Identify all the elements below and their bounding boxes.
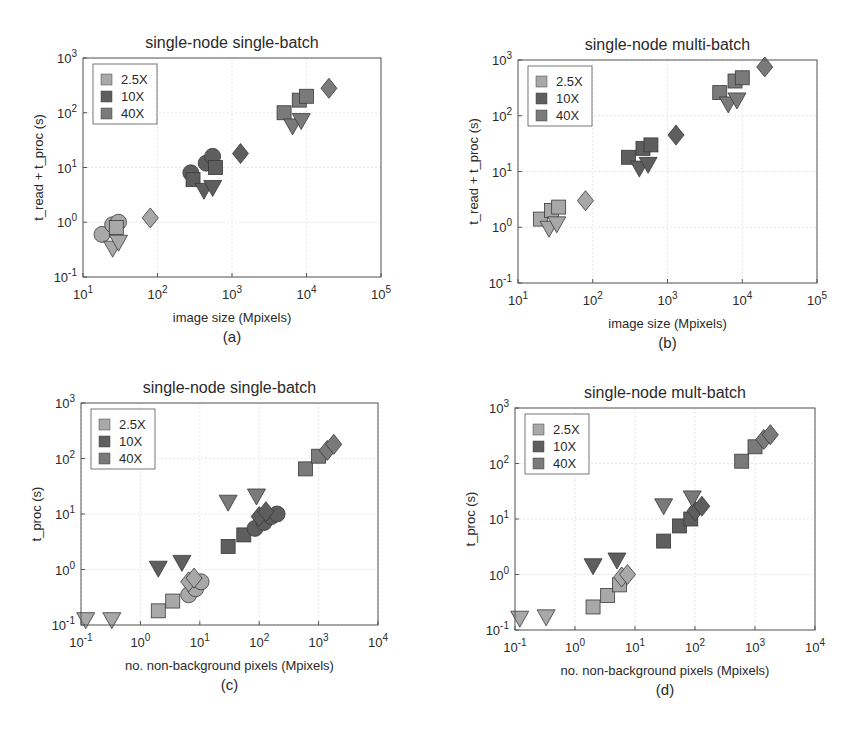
square-marker xyxy=(586,600,600,614)
square-marker xyxy=(735,71,749,85)
figure-canvas: 10110210310410510-1100101102103single-no… xyxy=(0,0,851,737)
panel-caption: (c) xyxy=(221,676,239,693)
legend: 2.5X10X40X xyxy=(528,66,592,126)
tick-label: 102 xyxy=(583,290,603,308)
tick-label: 10-1 xyxy=(52,615,76,633)
x-axis-label: no. non-background pixels (Mpixels) xyxy=(561,663,770,678)
x-axis-label: no. non-background pixels (Mpixels) xyxy=(125,658,334,673)
chart-title: single-node multi-batch xyxy=(585,36,750,53)
legend-label: 40X xyxy=(556,108,579,123)
tick-label: 102 xyxy=(492,106,512,124)
legend-swatch xyxy=(99,453,110,464)
chart-c: 10-110010110210310410-1100101102103singl… xyxy=(29,379,388,693)
legend-label: 2.5X xyxy=(119,417,146,432)
tick-label: 100 xyxy=(489,565,509,583)
square-marker xyxy=(298,462,312,476)
tick-label: 104 xyxy=(296,284,316,302)
legend-swatch xyxy=(533,424,544,435)
square-marker xyxy=(151,604,165,618)
tick-label: 105 xyxy=(807,290,827,308)
panel-caption: (b) xyxy=(658,334,676,351)
tick-label: 103 xyxy=(55,393,75,411)
tick-label: 101 xyxy=(508,290,528,308)
tick-label: 101 xyxy=(489,509,509,527)
legend-label: 10X xyxy=(556,91,579,106)
y-axis-label: t_proc (s) xyxy=(463,492,478,547)
y-axis-label: t_read + t_proc (s) xyxy=(466,118,481,225)
panel-caption: (d) xyxy=(656,681,674,698)
legend-swatch xyxy=(536,93,547,104)
chart-title: single-node single-batch xyxy=(145,34,318,51)
legend-label: 40X xyxy=(121,106,144,121)
square-marker xyxy=(208,161,222,175)
legend: 2.5X10X40X xyxy=(91,409,155,469)
y-axis-label: t_read + t_proc (s) xyxy=(31,114,46,221)
square-marker xyxy=(300,89,314,103)
square-marker xyxy=(644,138,658,152)
tick-label: 103 xyxy=(657,290,677,308)
y-axis-label: t_proc (s) xyxy=(29,487,44,542)
tick-label: 103 xyxy=(222,284,242,302)
tick-label: 101 xyxy=(190,632,210,650)
figure: 10110210310410510-1100101102103single-no… xyxy=(0,0,851,737)
tick-label: 102 xyxy=(489,454,509,472)
tick-label: 10-1 xyxy=(503,637,527,655)
legend-swatch xyxy=(101,74,112,85)
tick-label: 10-1 xyxy=(54,267,78,285)
tick-label: 100 xyxy=(492,217,512,235)
x-axis-label: image size (Mpixels) xyxy=(173,310,291,325)
tick-label: 104 xyxy=(368,632,388,650)
tick-label: 102 xyxy=(147,284,167,302)
tick-label: 101 xyxy=(492,162,512,180)
square-marker xyxy=(735,454,749,468)
tick-label: 102 xyxy=(685,637,705,655)
tick-label: 100 xyxy=(55,560,75,578)
tick-label: 10-1 xyxy=(489,273,513,291)
tick-label: 105 xyxy=(371,284,391,302)
legend-swatch xyxy=(99,436,110,447)
tick-label: 100 xyxy=(565,637,585,655)
legend-swatch xyxy=(536,76,547,87)
tick-label: 103 xyxy=(309,632,329,650)
tick-label: 10-1 xyxy=(486,620,510,638)
chart-title: single-node single-batch xyxy=(143,379,316,396)
chart-title: single-node mult-batch xyxy=(584,384,746,401)
tick-label: 10-1 xyxy=(69,632,93,650)
legend-label: 2.5X xyxy=(556,74,583,89)
chart-d: 10-110010110210310410-1100101102103singl… xyxy=(463,384,825,698)
legend-label: 10X xyxy=(119,434,142,449)
square-marker xyxy=(552,200,566,214)
square-marker xyxy=(109,221,123,235)
tick-label: 101 xyxy=(57,158,77,176)
square-marker xyxy=(657,534,671,548)
legend-swatch xyxy=(101,91,112,102)
chart-a: 10110210310410510-1100101102103single-no… xyxy=(31,34,391,345)
square-marker xyxy=(221,539,235,553)
tick-label: 102 xyxy=(249,632,269,650)
tick-label: 101 xyxy=(55,504,75,522)
legend-swatch xyxy=(536,110,547,121)
legend: 2.5X10X40X xyxy=(525,414,589,474)
legend-label: 40X xyxy=(119,451,142,466)
legend-swatch xyxy=(99,419,110,430)
tick-label: 103 xyxy=(489,398,509,416)
tick-label: 100 xyxy=(130,632,150,650)
legend-label: 2.5X xyxy=(121,72,148,87)
square-marker xyxy=(166,594,180,608)
tick-label: 103 xyxy=(492,50,512,68)
tick-label: 101 xyxy=(73,284,93,302)
tick-label: 104 xyxy=(732,290,752,308)
legend-label: 40X xyxy=(553,456,576,471)
tick-label: 101 xyxy=(625,637,645,655)
tick-label: 103 xyxy=(745,637,765,655)
tick-label: 102 xyxy=(55,449,75,467)
chart-b: 10110210310410510-1100101102103single-no… xyxy=(466,36,827,351)
tick-label: 104 xyxy=(805,637,825,655)
x-axis-label: image size (Mpixels) xyxy=(608,316,726,331)
legend-swatch xyxy=(101,108,112,119)
legend-swatch xyxy=(533,441,544,452)
tick-label: 103 xyxy=(57,48,77,66)
panel-caption: (a) xyxy=(223,328,241,345)
tick-label: 100 xyxy=(57,212,77,230)
tick-label: 102 xyxy=(57,103,77,121)
